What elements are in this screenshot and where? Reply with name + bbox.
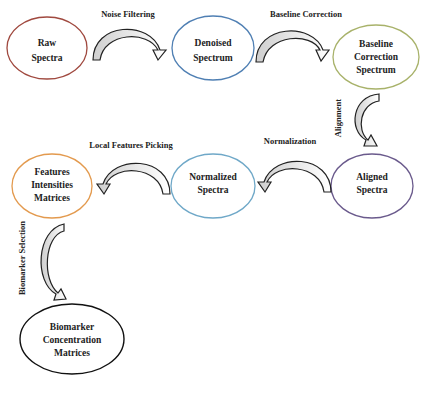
node-biomarker-concentration-matrices: Biomarker Concentration Matrices <box>20 304 124 374</box>
svg-text:Concentration: Concentration <box>43 335 102 345</box>
arrow-alignment: Alignment <box>333 94 379 146</box>
svg-text:Spectrum: Spectrum <box>356 65 396 75</box>
arrow-biomarker-selection: Biomarker Selection <box>17 221 66 300</box>
svg-text:Matrices: Matrices <box>54 348 90 358</box>
svg-text:Aligned: Aligned <box>356 172 388 182</box>
svg-text:Normalization: Normalization <box>264 136 317 146</box>
arrow-baseline-correction: Baseline Correction <box>256 9 342 62</box>
workflow-diagram: Raw Spectra Denoised Spectrum Baseline C… <box>0 0 426 394</box>
svg-text:Denoised: Denoised <box>195 38 233 48</box>
svg-text:Biomarker: Biomarker <box>50 322 95 332</box>
svg-text:Normalized: Normalized <box>189 172 237 182</box>
svg-text:Spectra: Spectra <box>31 53 62 63</box>
svg-text:Matrices: Matrices <box>34 193 70 203</box>
arrow-local-features-picking: Local Features Picking <box>89 140 173 194</box>
node-features-intensities-matrices: Features Intensities Matrices <box>12 154 92 218</box>
node-denoised-spectrum: Denoised Spectrum <box>172 16 254 80</box>
svg-text:Baseline: Baseline <box>359 39 393 49</box>
svg-text:Local Features Picking: Local Features Picking <box>89 140 173 150</box>
arrow-noise-filtering: Noise Filtering <box>93 9 166 60</box>
svg-text:Spectra: Spectra <box>356 185 387 195</box>
svg-text:Alignment: Alignment <box>333 99 343 137</box>
svg-text:Spectra: Spectra <box>197 185 228 195</box>
svg-text:Baseline Correction: Baseline Correction <box>270 9 342 19</box>
arrow-normalization: Normalization <box>258 136 331 192</box>
svg-text:Raw: Raw <box>38 38 57 48</box>
svg-text:Correction: Correction <box>354 52 399 62</box>
node-raw-spectra: Raw Spectra <box>7 17 87 79</box>
node-aligned-spectra: Aligned Spectra <box>331 154 413 218</box>
node-baseline-correction-spectrum: Baseline Correction Spectrum <box>333 25 419 89</box>
svg-text:Spectrum: Spectrum <box>193 53 233 63</box>
svg-text:Biomarker Selection: Biomarker Selection <box>17 221 27 295</box>
svg-text:Noise Filtering: Noise Filtering <box>101 9 155 19</box>
svg-text:Features: Features <box>34 167 69 177</box>
node-normalized-spectra: Normalized Spectra <box>171 154 255 218</box>
svg-text:Intensities: Intensities <box>31 180 73 190</box>
